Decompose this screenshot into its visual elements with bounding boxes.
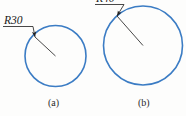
subfigure-a: R30 (a)	[3, 14, 86, 109]
dimension-label-b: R40	[95, 0, 115, 4]
figure-canvas: R30 (a) R40 (b)	[0, 0, 186, 116]
dimension-label-a: R30	[3, 14, 23, 26]
engineering-figure: R30 (a) R40 (b)	[0, 0, 186, 116]
caption-a: (a)	[48, 97, 59, 109]
leader-arrow-b	[117, 5, 124, 17]
caption-b: (b)	[138, 97, 150, 109]
radius-line-b	[117, 16, 143, 46]
radius-line-a	[35, 37, 56, 56]
subfigure-b: R40 (b)	[95, 0, 183, 109]
